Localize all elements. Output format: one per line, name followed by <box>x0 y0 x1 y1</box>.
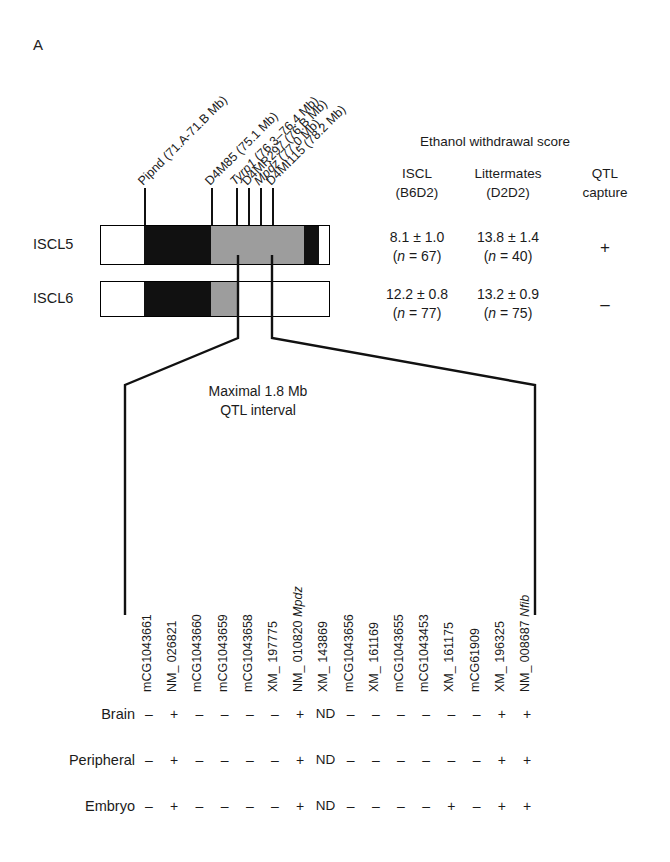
gene-label-1: NM_ 026821 <box>165 620 179 692</box>
expression-cell-peripheral-11: – <box>414 752 438 768</box>
expression-cell-embryo-6: + <box>288 798 312 814</box>
table-title: Ethanol withdrawal score <box>390 134 600 149</box>
gene-label-0: mCG1043661 <box>140 614 154 692</box>
expression-cell-peripheral-3: – <box>213 752 237 768</box>
expression-cell-embryo-10: – <box>389 798 413 814</box>
expression-cell-peripheral-12: – <box>439 752 463 768</box>
col-header-iscl-line1: ISCL <box>375 166 459 181</box>
marker-tick-1 <box>211 188 213 225</box>
expression-cell-peripheral-7: ND <box>313 752 337 767</box>
expression-cell-embryo-13: – <box>465 798 489 814</box>
gene-label-8: mCG1043656 <box>342 614 356 692</box>
col-header-littermates-line1: Littermates <box>458 166 558 181</box>
expression-cell-peripheral-6: + <box>288 752 312 768</box>
gene-label-9: XM_ 161169 <box>367 622 381 692</box>
expression-cell-peripheral-0: – <box>137 752 161 768</box>
expression-cell-peripheral-8: – <box>339 752 363 768</box>
expression-cell-embryo-12: + <box>439 798 463 814</box>
gene-label-2: mCG1043660 <box>190 614 204 692</box>
expression-cell-brain-2: – <box>187 706 211 722</box>
gene-label-7: XM_ 143869 <box>316 621 330 692</box>
gene-label-5: XM_ 197775 <box>266 621 280 692</box>
expression-cell-brain-14: + <box>490 706 514 722</box>
iscl-score-iscl5-mean: 8.1 ± 1.0 <box>375 228 459 247</box>
expression-cell-embryo-11: – <box>414 798 438 814</box>
expression-cell-brain-5: – <box>263 706 287 722</box>
expression-cell-embryo-15: + <box>515 798 539 814</box>
gene-label-11: mCG1043453 <box>417 614 431 692</box>
littermate-score-iscl5-mean: 13.8 ± 1.4 <box>458 228 558 247</box>
expression-cell-brain-13: – <box>465 706 489 722</box>
col-header-iscl-line2: (B6D2) <box>375 185 459 200</box>
expression-cell-embryo-14: + <box>490 798 514 814</box>
expression-cell-peripheral-15: + <box>515 752 539 768</box>
gene-label-14: XM_ 196325 <box>493 621 507 692</box>
expression-cell-brain-9: – <box>364 706 388 722</box>
expression-cell-peripheral-13: – <box>465 752 489 768</box>
gene-label-15: NM_ 008687 Nfib <box>518 595 532 692</box>
expression-cell-brain-4: – <box>238 706 262 722</box>
expression-cell-peripheral-4: – <box>238 752 262 768</box>
expression-cell-brain-10: – <box>389 706 413 722</box>
interval-caption-line1: Maximal 1.8 Mb <box>178 382 338 401</box>
expression-cell-embryo-9: – <box>364 798 388 814</box>
expression-cell-brain-1: + <box>162 706 186 722</box>
figure-panel-a: A Pipnd (71.A-71.B Mb)D4M85 (75.1 Mb)Tyr… <box>0 0 670 862</box>
marker-tick-5 <box>272 188 274 225</box>
interval-caption-line2: QTL interval <box>178 401 338 420</box>
col-header-qtl-line2: capture <box>565 185 645 200</box>
expression-cell-brain-15: + <box>515 706 539 722</box>
expression-cell-embryo-8: – <box>339 798 363 814</box>
expression-cell-peripheral-1: + <box>162 752 186 768</box>
expression-cell-brain-12: – <box>439 706 463 722</box>
expression-cell-peripheral-2: – <box>187 752 211 768</box>
expression-cell-brain-6: + <box>288 706 312 722</box>
col-header-qtl-line1: QTL <box>565 166 645 181</box>
marker-tick-0 <box>144 188 146 225</box>
gene-label-12: XM_ 161175 <box>442 622 456 692</box>
expression-cell-peripheral-14: + <box>490 752 514 768</box>
marker-tick-2 <box>236 188 238 225</box>
panel-letter: A <box>33 36 43 53</box>
expression-row-label-embryo: Embryo <box>20 798 135 814</box>
interval-caption: Maximal 1.8 Mb QTL interval <box>178 382 338 420</box>
expression-cell-embryo-0: – <box>137 798 161 814</box>
expression-cell-peripheral-9: – <box>364 752 388 768</box>
gene-label-13: mCG61909 <box>468 628 482 692</box>
expression-cell-brain-3: – <box>213 706 237 722</box>
gene-label-6: NM_ 010820 Mpdz <box>291 586 305 692</box>
gene-label-10: mCG1043655 <box>392 614 406 692</box>
expression-cell-brain-11: – <box>414 706 438 722</box>
gene-label-3: mCG1043659 <box>216 614 230 692</box>
expression-cell-brain-7: ND <box>313 706 337 721</box>
expression-cell-peripheral-5: – <box>263 752 287 768</box>
expression-cell-embryo-2: – <box>187 798 211 814</box>
expression-cell-embryo-1: + <box>162 798 186 814</box>
expression-row-label-brain: Brain <box>20 706 135 722</box>
expression-cell-peripheral-10: – <box>389 752 413 768</box>
qtl-interval-connector <box>0 255 670 615</box>
marker-tick-3 <box>248 188 250 225</box>
expression-cell-embryo-4: – <box>238 798 262 814</box>
gene-label-4: mCG1043658 <box>241 614 255 692</box>
expression-cell-embryo-7: ND <box>313 798 337 813</box>
col-header-littermates-line2: (D2D2) <box>458 185 558 200</box>
strain-label-iscl5: ISCL5 <box>33 236 73 252</box>
expression-cell-embryo-5: – <box>263 798 287 814</box>
expression-cell-brain-0: – <box>137 706 161 722</box>
marker-tick-4 <box>260 188 262 225</box>
expression-cell-embryo-3: – <box>213 798 237 814</box>
expression-row-label-peripheral: Peripheral <box>20 752 135 768</box>
expression-cell-brain-8: – <box>339 706 363 722</box>
